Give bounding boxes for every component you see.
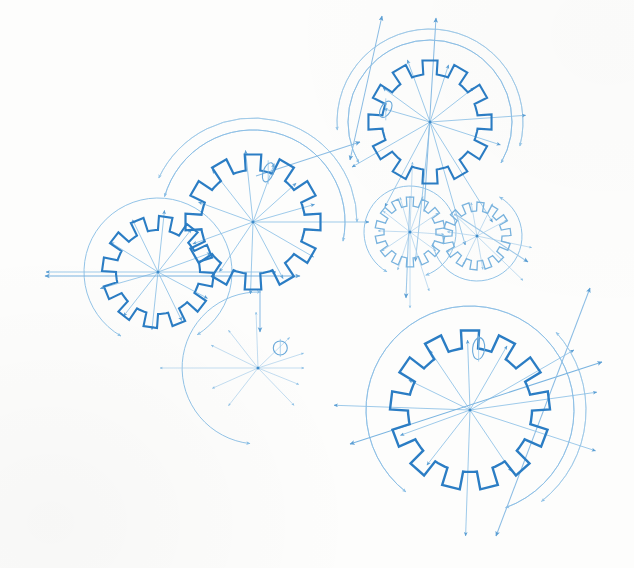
gear-top-right-spoke	[407, 60, 430, 122]
arc-left-a	[165, 130, 345, 241]
gear-bottom-right-spoke	[430, 350, 470, 410]
gear-mini-right-spoke	[477, 220, 507, 236]
gear-top-right-spoke	[383, 88, 430, 122]
gear-mini-right-spoke	[447, 236, 477, 252]
gear-left-large-spoke	[250, 222, 253, 294]
gear-bottom-right-spoke	[470, 350, 574, 410]
gear-top-right-center-mark	[429, 121, 432, 124]
dim-bottom-right-axis	[350, 362, 602, 444]
gear-phantom-centre-spoke	[258, 368, 299, 384]
gear-bottom-right-center-mark	[469, 409, 472, 412]
gear-phantom-centre-spoke	[228, 330, 258, 368]
gear-left-large-pitch-arc	[165, 130, 345, 241]
gear-left-large-outer-arc	[159, 118, 357, 222]
arc-top-b	[337, 29, 523, 146]
gear-mini-right-center-mark	[476, 235, 479, 238]
gear-mini-left-spoke	[410, 232, 444, 234]
gear-left-large-spoke	[219, 222, 253, 272]
arc-left-b	[159, 118, 357, 222]
gear-top-right-outer-arc	[337, 29, 523, 146]
gear-left-small-spoke	[100, 272, 158, 289]
radial-spoke-layer	[46, 60, 597, 536]
gear-blueprint-svg	[0, 0, 634, 568]
gear-phantom-centre-spoke	[228, 368, 258, 406]
gear-bottom-right-spoke	[468, 340, 470, 410]
gear-bottom-right-spoke	[400, 410, 470, 435]
gear-bottom-right-spoke	[409, 380, 470, 410]
gear-mini-left-spoke	[378, 231, 410, 232]
gear-phantom-centre-spoke	[256, 312, 258, 368]
gear-phantom-centre-spoke	[211, 345, 258, 368]
gear-phantom-centre-spoke	[212, 368, 258, 388]
gear-mini-left-center-mark	[409, 231, 412, 234]
dim-bottom-right-diagonal	[496, 288, 590, 536]
gear-phantom-centre-center-mark	[257, 367, 260, 370]
dim-centre-link	[256, 142, 360, 176]
gear-top-right-spoke	[430, 122, 500, 145]
gear-left-large-spoke	[245, 150, 253, 222]
gear-outline-layer	[102, 60, 550, 489]
gear-mini-left-spoke	[383, 211, 410, 232]
gear-mini-left-spoke	[410, 232, 436, 251]
gear-left-small-center-mark	[157, 271, 160, 274]
gear-left-large-center-mark	[252, 221, 255, 224]
keyway-layer	[260, 98, 486, 361]
dim-mini-vertical	[406, 196, 410, 298]
gear-phantom-centre-spoke	[258, 368, 294, 405]
gear-bottom-right-spoke	[470, 346, 507, 410]
drawing-canvas	[0, 0, 634, 568]
